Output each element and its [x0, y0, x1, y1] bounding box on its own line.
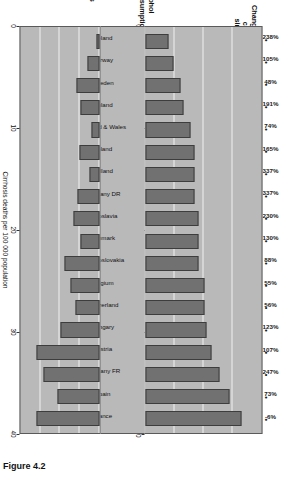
alcohol-bar-slot — [145, 74, 261, 96]
percent-change-label: 88% — [264, 256, 276, 263]
alcohol-bar-slot — [145, 119, 261, 141]
alcohol-bar — [145, 122, 190, 137]
percent-change-label: 247% — [262, 368, 278, 375]
alcohol-bar-slot — [145, 341, 261, 363]
alcohol-bar-slot — [145, 208, 261, 230]
country-label-slot: Belgium — [100, 274, 144, 296]
percent-change-label: 191% — [262, 100, 278, 107]
country-label-slot: France — [100, 408, 144, 430]
cirrhosis-bar — [91, 122, 99, 137]
cirrhosis-bar — [87, 56, 99, 71]
cirrhosis-bar-slot — [20, 119, 99, 141]
alcohol-bar-slot — [145, 141, 261, 163]
cirrhosis-axis: 010203040Cirrhosis deaths per 100 000 po… — [7, 26, 19, 434]
alcohol-bar — [145, 234, 198, 249]
axis-tick-label: 0 — [9, 24, 16, 28]
country-label-slot: Yugoslavia — [100, 208, 144, 230]
country-label-slot: Sweden — [100, 74, 144, 96]
alcohol-bar-slot — [145, 52, 261, 74]
country-label-slot: Norway — [100, 52, 144, 74]
percent-change-label: 238% — [262, 33, 278, 40]
alcohol-bar — [145, 367, 219, 382]
cirrhosis-bar-slot — [20, 30, 99, 52]
cirrhosis-bar — [43, 367, 99, 382]
cirrhosis-bar — [80, 100, 99, 115]
country-label-slot: Germany FR — [100, 363, 144, 385]
percent-change-label: 105% — [262, 55, 278, 62]
country-label-slot: Switzerland — [100, 297, 144, 319]
country-label-slot: Denmark — [100, 230, 144, 252]
cirrhosis-bar — [75, 300, 99, 315]
cirrhosis-bar-slot — [20, 297, 99, 319]
alcohol-bar — [145, 211, 198, 226]
cirrhosis-bar-slot — [20, 141, 99, 163]
cirrhosis-bar-slot — [20, 386, 99, 408]
charts-area: •238%•105%•48%•191%•74%•165%•337%•337%•2… — [19, 0, 262, 434]
cirrhosis-bar-slot — [20, 163, 99, 185]
alcohol-bar — [145, 322, 206, 337]
percent-change-label: 123% — [262, 323, 278, 330]
country-label-slot: Holland — [100, 163, 144, 185]
axis-tick-label: 20 — [9, 226, 16, 233]
percent-change-label: 337% — [262, 189, 278, 196]
axis-title: Cirrhosis deaths per 100 000 population — [1, 172, 8, 289]
country-label-slot: Austria — [100, 341, 144, 363]
plot-wrapper: Alcohol consumption Change in alcohol co… — [19, 0, 262, 434]
figure-container: Alcohol consumption Change in alcohol co… — [19, 0, 262, 434]
country-label-slot: Czechoslovakia — [100, 252, 144, 274]
alcohol-bar-slot — [145, 297, 261, 319]
percent-change-label: 165% — [262, 145, 278, 152]
cirrhosis-bar-slot — [20, 408, 99, 430]
country-labels: IcelandNorwaySwedenFinlandEngland & Wale… — [100, 27, 144, 433]
alcohol-bar — [145, 345, 211, 360]
percent-change-label: -6% — [264, 413, 275, 420]
alcohol-consumption-panel — [144, 26, 262, 434]
axis-tick-label: 30 — [9, 328, 16, 335]
alcohol-bar — [145, 411, 241, 426]
cirrhosis-bar-slot — [20, 274, 99, 296]
cirrhosis-panel-title: Cirrhosis of liver — [78, 0, 95, 23]
axis-tick-label: 10 — [9, 124, 16, 131]
percent-change-label: 107% — [262, 346, 278, 353]
cirrhosis-bars — [20, 27, 99, 433]
percent-change-label: 73% — [264, 390, 276, 397]
alcohol-bar — [145, 56, 173, 71]
country-label-slot: Iceland — [100, 30, 144, 52]
alcohol-bar — [145, 78, 180, 93]
cirrhosis-bar-slot — [20, 341, 99, 363]
alcohol-bars — [145, 27, 261, 433]
country-label-slot: Germany DR — [100, 186, 144, 208]
alcohol-bar-slot — [145, 230, 261, 252]
percent-change-label: 337% — [262, 167, 278, 174]
alcohol-bar-slot — [145, 408, 261, 430]
alcohol-bar-slot — [145, 186, 261, 208]
country-label-slot: England & Wales — [100, 119, 144, 141]
alcohol-bar-slot — [145, 274, 261, 296]
cirrhosis-bar-slot — [20, 208, 99, 230]
country-label-slot: Spain — [100, 386, 144, 408]
cirrhosis-bar — [76, 78, 99, 93]
alcohol-bar-slot — [145, 163, 261, 185]
cirrhosis-bar — [64, 256, 99, 271]
cirrhosis-bar-slot — [20, 230, 99, 252]
percent-change-label: 130% — [262, 234, 278, 241]
cirrhosis-bar — [80, 234, 99, 249]
percent-change-label: 55% — [264, 279, 276, 286]
alcohol-bar-slot — [145, 363, 261, 385]
percent-change-label: 74% — [264, 122, 276, 129]
cirrhosis-bar-slot — [20, 319, 99, 341]
alcohol-bar — [145, 256, 198, 271]
alcohol-bar — [145, 34, 168, 49]
category-labels-strip: IcelandNorwaySwedenFinlandEngland & Wale… — [100, 26, 144, 434]
cirrhosis-bar — [96, 34, 99, 49]
alcohol-bar — [145, 278, 204, 293]
country-label-slot: Poland — [100, 141, 144, 163]
alcohol-bar — [145, 300, 204, 315]
country-label-slot: Finland — [100, 97, 144, 119]
percent-change-label: 48% — [264, 78, 276, 85]
cirrhosis-bar-slot — [20, 186, 99, 208]
alcohol-bar — [145, 145, 194, 160]
alcohol-bar — [145, 189, 194, 204]
cirrhosis-panel: Cirrhosis of liver — [19, 26, 100, 434]
cirrhosis-bar-slot — [20, 252, 99, 274]
